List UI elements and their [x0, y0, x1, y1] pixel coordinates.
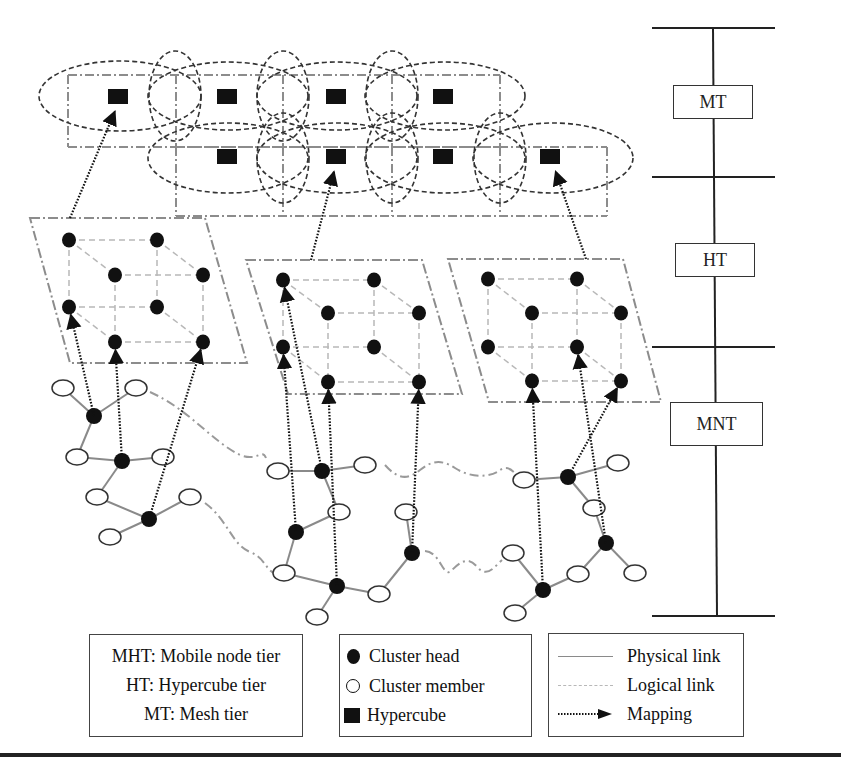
legend-item-cluster-head: Cluster head	[340, 642, 531, 670]
legend-item-logical-link: Logical link	[549, 671, 743, 699]
logical-link	[374, 347, 419, 382]
hypercube-icon	[433, 149, 453, 164]
cluster-head-node	[150, 300, 164, 315]
cluster-member-node	[368, 586, 390, 602]
cluster-member-node	[504, 605, 526, 621]
cluster-member-node	[328, 504, 350, 520]
cluster-member-node	[52, 380, 74, 396]
cluster-member-node	[99, 529, 121, 545]
cluster-head-node	[196, 335, 210, 350]
logical-link	[157, 240, 203, 275]
solid-line-icon	[558, 656, 613, 657]
cluster-member-node	[607, 455, 629, 471]
cluster-member-node	[513, 472, 535, 488]
cluster-head-node	[481, 272, 495, 287]
logical-link	[283, 347, 328, 382]
logical-link	[283, 280, 328, 313]
dashed-line-icon	[558, 685, 613, 686]
cluster-member-node	[624, 565, 646, 581]
hypercube-icon	[108, 89, 128, 104]
cluster-head-node	[412, 306, 426, 321]
hypercube-icon	[217, 149, 237, 164]
cluster-head-node	[525, 306, 539, 321]
bottom-rule	[0, 753, 841, 757]
filled-circle-icon	[347, 649, 360, 664]
tier-label-mnt: MNT	[670, 402, 763, 446]
tier-label-mt: MT	[673, 85, 753, 119]
logical-link	[157, 307, 203, 342]
cluster-head-node	[321, 375, 335, 390]
cluster-head-node	[321, 306, 335, 321]
mapping-arrow	[284, 355, 296, 532]
cluster-head-node	[150, 233, 164, 248]
logical-link	[577, 279, 621, 313]
cluster-member-node	[86, 489, 108, 505]
logical-link	[577, 347, 621, 381]
mapping-arrow	[532, 389, 543, 590]
mapping-arrow	[285, 288, 322, 471]
cluster-head-node	[196, 268, 210, 283]
hypercube-icon	[326, 89, 346, 104]
hypercube-icon	[326, 149, 346, 164]
logical-link	[488, 347, 532, 381]
cluster-member-node	[66, 449, 88, 465]
cluster-head-node	[525, 374, 539, 389]
legend-ht-text: HT: Hypercube tier	[126, 671, 266, 700]
cluster-head-node	[108, 335, 122, 350]
cluster-boundary	[425, 551, 502, 572]
mapping-arrow	[556, 172, 586, 259]
cluster-head-node	[62, 300, 76, 315]
cluster-boundary	[385, 462, 520, 478]
hypercube-icon	[540, 149, 560, 164]
cluster-member-node	[567, 566, 589, 582]
logical-link	[488, 279, 532, 313]
cluster-member-node	[354, 457, 376, 473]
cluster-member-node	[125, 380, 147, 396]
cluster-head-node	[481, 340, 495, 355]
cluster-head-node	[570, 272, 584, 287]
tier-label-ht: HT	[675, 243, 755, 277]
mobile-node-tier	[52, 380, 646, 625]
legend-item-cluster-member: Cluster member	[340, 672, 531, 700]
cluster-head-node	[276, 340, 290, 355]
legend-link-types: Physical link Logical link Mapping	[548, 633, 744, 737]
legend-item-hypercube: Hypercube	[340, 701, 531, 729]
cluster-head-node	[367, 273, 381, 288]
cluster-head-node	[614, 374, 628, 389]
logical-link	[69, 240, 115, 275]
dotted-arrow-icon	[558, 708, 613, 720]
legend-node-types: Cluster head Cluster member Hypercube	[339, 634, 532, 737]
cluster-head-node	[62, 233, 76, 248]
cluster-head-node	[412, 375, 426, 390]
cluster-head-node	[108, 268, 122, 283]
legend-item-mapping: Mapping	[549, 700, 743, 728]
cluster-member-node	[502, 545, 524, 561]
cluster-head-node	[570, 340, 584, 355]
legend-mt-text: MT: Mesh tier	[144, 700, 248, 729]
mapping-arrow	[115, 350, 122, 461]
cluster-member-node	[306, 609, 328, 625]
cluster-boundary	[150, 392, 266, 458]
mapping-arrow	[70, 111, 115, 218]
logical-link	[374, 280, 419, 313]
legend-item-physical-link: Physical link	[549, 642, 743, 670]
open-circle-icon	[346, 679, 360, 693]
hypercube-tier	[30, 218, 661, 402]
cluster-head-node	[367, 340, 381, 355]
cluster-member-node	[179, 489, 201, 505]
mapping-arrow	[71, 315, 94, 416]
mesh-tier	[39, 51, 633, 216]
cluster-head-node	[276, 273, 290, 288]
hypercube-icon	[217, 89, 237, 104]
cluster-head-node	[614, 306, 628, 321]
legend-mnt-text: MHT: Mobile node tier	[112, 642, 281, 671]
cluster-member-node	[267, 463, 289, 479]
filled-square-icon	[344, 708, 360, 723]
cluster-member-node	[273, 565, 295, 581]
hypercube-icon	[433, 89, 453, 104]
legend-tier-abbreviations: MHT: Mobile node tier HT: Hypercube tier…	[89, 634, 303, 737]
